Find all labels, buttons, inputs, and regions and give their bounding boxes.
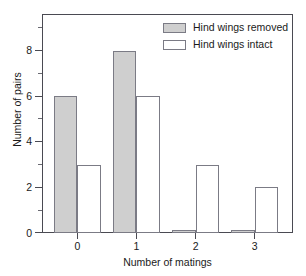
bar: [54, 96, 78, 233]
bar: [231, 230, 255, 233]
legend-item: Hind wings removed: [163, 20, 289, 35]
bar: [172, 230, 196, 233]
bar-chart-figure: Number of pairs 02468 0123 Number of mat…: [0, 0, 306, 276]
x-axis-tick-label: 3: [243, 241, 267, 252]
x-axis-title: Number of matings: [42, 257, 293, 268]
bar: [136, 96, 160, 233]
x-axis-tick: [254, 233, 255, 239]
x-axis-tick-label: 2: [184, 241, 208, 252]
bar: [255, 187, 279, 233]
bar: [113, 51, 137, 234]
legend-item: Hind wings intact: [163, 37, 289, 52]
x-axis-tick: [195, 233, 196, 239]
legend-swatch-icon: [163, 23, 186, 33]
bar: [77, 165, 101, 233]
legend-item-label: Hind wings removed: [193, 22, 288, 33]
bar: [196, 165, 220, 233]
legend: Hind wings removedHind wings intact: [163, 20, 289, 54]
x-axis-tick-label: 0: [65, 241, 89, 252]
x-axis-tick: [77, 233, 78, 239]
legend-swatch-icon: [163, 40, 186, 50]
x-axis-tick: [136, 233, 137, 239]
x-axis-tick-label: 1: [124, 241, 148, 252]
legend-item-label: Hind wings intact: [193, 39, 272, 50]
